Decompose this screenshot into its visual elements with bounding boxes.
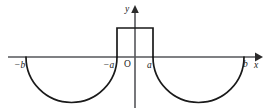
label-x-axis: x <box>254 61 258 71</box>
label-neg-b: −b <box>14 61 25 71</box>
label-pos-b: b <box>243 60 248 70</box>
label-pos-a: a <box>147 61 152 71</box>
label-y-axis: y <box>125 5 129 15</box>
right-semicircle-curve <box>153 57 244 103</box>
label-neg-a: −a <box>103 61 114 71</box>
math-figure: −b −a O a b y x <box>0 0 266 112</box>
y-axis-arrowhead <box>131 5 139 13</box>
graph-canvas <box>0 0 266 112</box>
label-origin: O <box>124 60 131 70</box>
